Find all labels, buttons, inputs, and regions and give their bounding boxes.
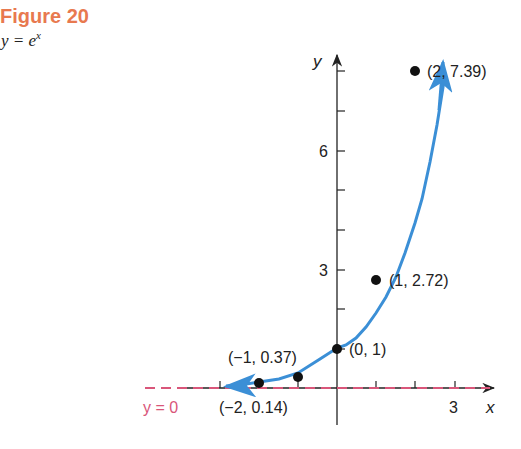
point-neg1 bbox=[293, 372, 303, 382]
point-label-2: (2, 7.39) bbox=[427, 63, 487, 80]
exp-curve bbox=[226, 81, 444, 386]
point-label-0: (0, 1) bbox=[349, 341, 386, 358]
point-label-1: (1, 2.72) bbox=[389, 272, 449, 289]
point-0 bbox=[332, 344, 342, 354]
point-label-neg2: (−2, 0.14) bbox=[219, 399, 288, 416]
asymptote-label: y = 0 bbox=[143, 399, 178, 416]
point-1 bbox=[371, 275, 381, 285]
y-tick-label-3: 3 bbox=[319, 262, 328, 279]
x-axis-label: x bbox=[485, 398, 495, 417]
point-label-neg1: (−1, 0.37) bbox=[228, 349, 297, 366]
point-2 bbox=[410, 66, 420, 76]
y-axis-label: y bbox=[312, 52, 323, 71]
y-tick-label-6: 6 bbox=[319, 143, 328, 160]
chart: y x 3 3 6 y = 0 (−2, 0.14) (−1, 0.37) (0… bbox=[0, 0, 521, 449]
y-ticks bbox=[337, 71, 345, 349]
x-tick-label-3: 3 bbox=[449, 399, 458, 416]
point-neg2 bbox=[254, 378, 264, 388]
